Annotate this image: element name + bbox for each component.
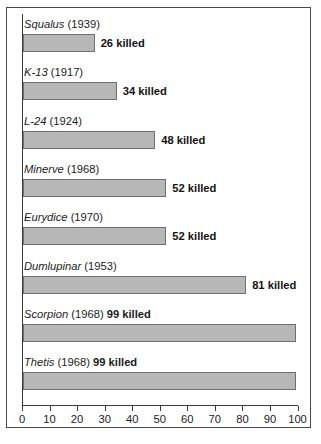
x-tick [132,406,133,411]
category-label: Scorpion (1968) 99 killed [24,308,151,321]
x-tick [242,406,243,411]
category-label: L-24 (1924) [24,115,82,128]
x-tick [270,406,271,411]
x-tick [50,406,51,411]
bar-row: 81 killed [23,276,299,294]
bar-value-label: 52 killed [172,229,216,243]
bar [23,372,296,390]
value-axis-line [22,14,23,406]
x-tick [187,406,188,411]
bar-row: 48 killed [23,131,299,149]
x-tick-label: 90 [264,412,276,426]
bar-row: 52 killed [23,227,299,245]
x-tick-label: 10 [43,412,55,426]
bar-row: 34 killed [23,82,299,100]
x-tick-label: 20 [71,412,83,426]
category-label: K-13 (1917) [24,66,83,79]
category-label: Minerve (1968) [24,163,99,176]
category-label: Thetis (1968) 99 killed [24,356,137,369]
x-tick-label: 70 [209,412,221,426]
bar-value-label: 48 killed [161,133,205,147]
bar [23,324,296,342]
bar [23,179,166,197]
category-name: L-24 [24,115,46,127]
x-tick-label: 30 [98,412,110,426]
bar-value-label: 34 killed [123,84,167,98]
bar-row [23,372,299,390]
bar-value-label: 99 killed [107,308,151,320]
bar-value-label: 26 killed [101,36,145,50]
x-tick [77,406,78,411]
x-tick-label: 100 [288,412,307,426]
category-year: (1917) [51,66,83,78]
bar [23,131,155,149]
x-tick-label: 80 [236,412,248,426]
category-label: Eurydice (1970) [24,211,103,224]
category-name: Minerve [24,163,64,175]
bar-row: 52 killed [23,179,299,197]
chart-frame: Squalus (1939)26 killedK-13 (1917)34 kil… [6,7,311,428]
category-label: Squalus (1939) [24,18,100,31]
bar [23,227,166,245]
x-tick [22,406,23,411]
bar-value-label: 52 killed [172,181,216,195]
bar-value-label: 81 killed [252,278,296,292]
x-tick-label: 40 [126,412,138,426]
category-label: Dumlupinar (1953) [24,260,117,273]
x-tick-label: 0 [19,412,25,426]
category-name: Dumlupinar [24,260,81,272]
bar-row: 26 killed [23,34,299,52]
category-year: (1924) [50,115,82,127]
category-year: (1970) [71,211,103,223]
category-name: Eurydice [24,211,68,223]
category-name: Thetis [24,356,54,368]
category-name: Scorpion [24,308,68,320]
category-name: Squalus [24,18,64,30]
bar [23,82,117,100]
x-tick [105,406,106,411]
x-tick-label: 60 [181,412,193,426]
category-year: (1939) [68,18,100,30]
category-year: (1953) [84,260,116,272]
x-tick [160,406,161,411]
plot-area: Squalus (1939)26 killedK-13 (1917)34 kil… [7,8,310,427]
x-tick [215,406,216,411]
category-year: (1968) [71,308,103,320]
bar-value-label: 99 killed [93,356,137,368]
category-year: (1968) [58,356,90,368]
category-year: (1968) [67,163,99,175]
category-name: K-13 [24,66,48,78]
bar-row [23,324,299,342]
x-tick [298,406,299,411]
bar [23,34,95,52]
x-tick-label: 50 [154,412,166,426]
bar [23,276,246,294]
